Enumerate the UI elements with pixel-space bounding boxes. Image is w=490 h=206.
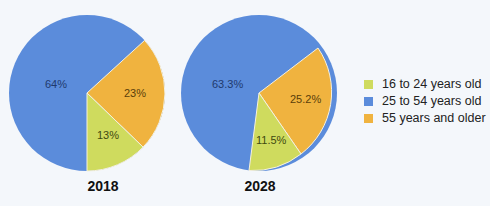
- legend-label: 25 to 54 years old: [382, 94, 481, 108]
- year-label-2028: 2028: [220, 178, 300, 194]
- pie-2018: 64% 23% 13%: [9, 15, 165, 171]
- legend-item-25-54: 25 to 54 years old: [364, 93, 486, 109]
- legend: 16 to 24 years old 25 to 54 years old 55…: [364, 76, 486, 127]
- label-11-5: 11.5%: [256, 134, 287, 146]
- label-64: 64%: [45, 78, 67, 90]
- legend-swatch-orange: [364, 114, 373, 123]
- pie-2028: 63.3% 25.2% 11.5%: [181, 15, 337, 171]
- legend-item-55plus: 55 years and older: [364, 110, 486, 126]
- legend-swatch-green: [364, 80, 373, 89]
- label-13: 13%: [97, 129, 119, 141]
- year-label-2018: 2018: [63, 178, 143, 194]
- legend-swatch-blue: [364, 97, 373, 106]
- label-63-3: 63.3%: [212, 78, 243, 90]
- legend-item-16-24: 16 to 24 years old: [364, 76, 486, 92]
- legend-label: 55 years and older: [382, 111, 486, 125]
- label-23: 23%: [124, 87, 146, 99]
- legend-label: 16 to 24 years old: [382, 77, 481, 91]
- label-25-2: 25.2%: [290, 93, 321, 105]
